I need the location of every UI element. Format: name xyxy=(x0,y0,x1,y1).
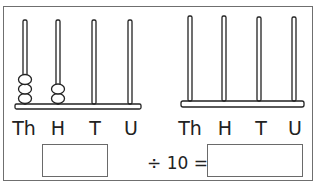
label-thousands: Th xyxy=(12,118,36,138)
label-units: U xyxy=(288,118,302,138)
label-thousands: Th xyxy=(178,118,202,138)
rod-t xyxy=(257,17,261,101)
bead xyxy=(52,94,65,104)
rod-u xyxy=(128,20,132,104)
answer-input-box[interactable] xyxy=(207,144,303,177)
label-tens: T xyxy=(255,118,267,138)
label-units: U xyxy=(124,118,138,138)
right-abacus-base xyxy=(181,101,304,107)
rod-h xyxy=(222,16,226,101)
left-abacus-base xyxy=(15,104,141,109)
label-tens: T xyxy=(89,118,101,138)
bead xyxy=(19,94,32,104)
number-input-box[interactable] xyxy=(42,144,108,177)
label-hundreds: H xyxy=(218,118,232,138)
divide-by-ten-text: ÷ 10 = xyxy=(147,154,208,172)
rod-th xyxy=(188,16,192,101)
bead xyxy=(19,84,32,94)
rod-u xyxy=(292,17,296,101)
label-hundreds: H xyxy=(51,118,65,138)
bead xyxy=(19,75,32,85)
right-abacus xyxy=(181,16,304,107)
rod-t xyxy=(92,20,96,104)
bead xyxy=(52,84,65,94)
left-abacus xyxy=(15,20,141,109)
